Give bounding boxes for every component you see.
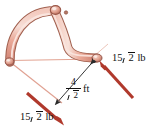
force-label-right: 152 lb — [112, 52, 146, 64]
dimension-unit: ft — [83, 84, 89, 95]
descending-member — [53, 12, 96, 58]
force-right-radical: 2 — [123, 52, 135, 64]
dimension-fraction: 4 2 — [66, 78, 81, 100]
force-label-left: 152 lb — [20, 111, 54, 123]
force-left-unit: lb — [45, 111, 53, 122]
force-left-radical: 2 — [31, 111, 43, 123]
top-pin-joint — [50, 6, 67, 15]
construction-lines — [10, 44, 109, 103]
dimension-label: 4 2 ft — [66, 78, 89, 100]
force-arrow-right — [100, 61, 134, 99]
curved-member — [10, 11, 50, 62]
force-left-magnitude: 15 — [20, 111, 31, 122]
diagonal-construction-line — [10, 62, 63, 104]
dimension-denominator: 2 — [66, 89, 81, 100]
dimension-radical: 2 — [68, 90, 79, 100]
force-diagram-figure: 152 lb 152 lb 4 2 ft — [0, 0, 155, 133]
force-right-magnitude: 15 — [112, 52, 123, 63]
left-pin-joint — [5, 58, 14, 65]
force-right-unit: lb — [137, 52, 145, 63]
dimension-numerator: 4 — [69, 78, 77, 88]
